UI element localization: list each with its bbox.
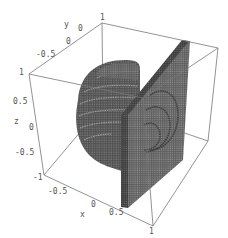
y-tick-label: 0 xyxy=(78,24,83,33)
z-tick-label: 1 xyxy=(19,68,24,77)
box-edge xyxy=(29,23,102,74)
x-tick-label: -0.5 xyxy=(48,187,67,196)
y-axis: y 0 0 -0.5 1 xyxy=(36,13,105,59)
x-tick-label: 0 xyxy=(91,200,96,209)
x-axis-label: x xyxy=(80,210,85,219)
y-tick-label: 1 xyxy=(100,13,105,22)
z-tick-label: -1 xyxy=(33,173,43,182)
voxel-3d-plot: y 0 0 -0.5 1 z 1 0.5 0 -0.5 -1 x -0.5 0 … xyxy=(0,0,228,238)
z-tick-label: -0.5 xyxy=(15,148,34,157)
z-tick-label: 0.5 xyxy=(13,97,28,106)
box-edge xyxy=(208,48,218,141)
x-tick-label: 0.5 xyxy=(109,208,124,217)
z-axis: z 1 0.5 0 -0.5 -1 xyxy=(13,68,43,182)
z-tick-label: 0 xyxy=(29,123,34,132)
y-tick-label: 0 xyxy=(66,37,71,46)
y-axis-label: y xyxy=(64,20,69,29)
y-tick-label: -0.5 xyxy=(36,50,55,59)
x-tick-label: 1 xyxy=(149,227,154,236)
z-axis-label: z xyxy=(14,117,19,126)
box-edge xyxy=(102,23,218,48)
